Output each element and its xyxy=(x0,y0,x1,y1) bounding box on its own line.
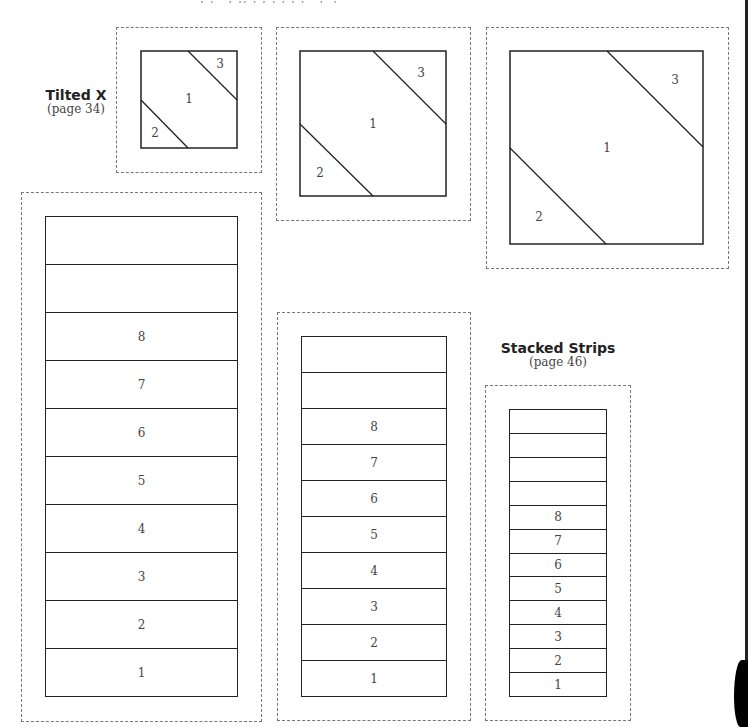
tilted-x-medium-block: 1 2 3 xyxy=(300,51,446,196)
strip: 3 xyxy=(46,552,237,600)
stacked-strips-medium-block: 8 7 6 5 4 3 2 1 xyxy=(301,336,447,697)
patch-1: 1 xyxy=(369,117,377,131)
strip: 7 xyxy=(302,444,446,480)
strip xyxy=(46,217,237,264)
strip: 4 xyxy=(302,552,446,588)
strip: 3 xyxy=(302,588,446,624)
strip: 4 xyxy=(510,600,606,624)
strip: 8 xyxy=(302,408,446,444)
strip: 6 xyxy=(302,480,446,516)
strip xyxy=(510,481,606,505)
strip xyxy=(302,372,446,408)
strip xyxy=(302,337,446,372)
patch-3: 3 xyxy=(417,66,425,80)
patch-2: 2 xyxy=(535,210,543,224)
patch-3: 3 xyxy=(671,73,679,87)
stacked-strips-title: Stacked Strips xyxy=(488,340,628,356)
strip: 5 xyxy=(302,516,446,552)
stacked-strips-small-block: 8 7 6 5 4 3 2 1 xyxy=(509,409,607,697)
strip: 7 xyxy=(510,529,606,553)
cropped-header-text: , ‚ ' , ‚‚ , , ‚ ‚ , , ' ,' , xyxy=(200,0,540,3)
tilted-x-label: Tilted X (page 34) xyxy=(36,87,116,116)
patch-3: 3 xyxy=(216,57,224,71)
strip: 2 xyxy=(302,624,446,660)
strip: 6 xyxy=(510,553,606,577)
page-shadow-blob xyxy=(734,660,748,727)
strip: 5 xyxy=(510,576,606,600)
stacked-strips-large-block: 8 7 6 5 4 3 2 1 xyxy=(45,216,238,697)
patch-2: 2 xyxy=(151,126,159,140)
strip xyxy=(510,457,606,481)
patch-1: 1 xyxy=(185,92,193,106)
strip: 6 xyxy=(46,408,237,456)
strip: 2 xyxy=(510,648,606,672)
patch-1: 1 xyxy=(603,141,611,155)
strip: 2 xyxy=(46,600,237,648)
tilted-x-large-block: 1 2 3 xyxy=(510,51,703,244)
strip: 1 xyxy=(46,648,237,696)
stacked-strips-label: Stacked Strips (page 46) xyxy=(488,340,628,369)
strip: 8 xyxy=(510,505,606,529)
strip: 1 xyxy=(510,672,606,696)
stacked-strips-page-ref: (page 46) xyxy=(488,355,628,369)
strip: 3 xyxy=(510,624,606,648)
strip: 4 xyxy=(46,504,237,552)
strip: 7 xyxy=(46,360,237,408)
strip xyxy=(46,264,237,312)
strip: 8 xyxy=(46,312,237,360)
patch-2: 2 xyxy=(316,166,324,180)
strip xyxy=(510,410,606,433)
strip: 1 xyxy=(302,660,446,696)
tilted-x-title: Tilted X xyxy=(36,87,116,103)
strip xyxy=(510,433,606,457)
strip: 5 xyxy=(46,456,237,504)
tilted-x-page-ref: (page 34) xyxy=(36,102,116,116)
tilted-x-small-block: 1 2 3 xyxy=(141,51,237,148)
